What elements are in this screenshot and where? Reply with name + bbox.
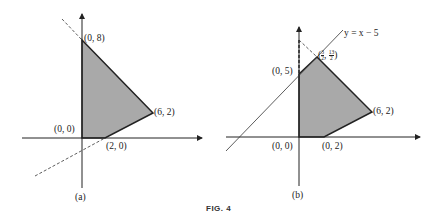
frac-suffix: ): [334, 50, 337, 60]
vertex-label-a-6-2: (6, 2): [154, 107, 175, 117]
dashed-line-a1: [62, 19, 82, 40]
vertex-label-a-0-0: (0, 0): [54, 124, 75, 134]
panel-label-b: (b): [292, 190, 303, 200]
vertex-label-b-0-5: (0, 5): [272, 66, 293, 76]
vertex-label-b-0-0: (0, 0): [272, 141, 293, 151]
vertex-label-b-frac: (32, 132): [318, 50, 337, 61]
dashed-line-a2: [35, 138, 105, 176]
vertex-label-a-2-0: (2, 0): [106, 141, 127, 151]
dashed-line-b: [299, 40, 317, 57]
feasible-region-a: [82, 40, 153, 138]
vertex-label-a-0-8: (0, 8): [84, 33, 105, 43]
panel-label-a: (a): [75, 192, 86, 202]
feasible-region-b: [299, 57, 372, 137]
panel-a: [22, 14, 202, 188]
line-label-b: y = x − 5: [344, 28, 378, 38]
vertex-label-b-6-2: (6, 2): [373, 106, 394, 116]
vertex-label-b-0-2: (0, 2): [322, 141, 343, 151]
figure-caption: FIG. 4: [206, 204, 231, 213]
